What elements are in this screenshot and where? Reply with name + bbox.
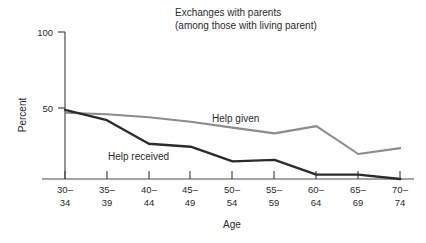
x-tick-label-2-top: 40– bbox=[141, 184, 158, 195]
x-axis: 30– 34 35– 39 40– 44 45– 49 50– 54 55– 5… bbox=[42, 171, 414, 208]
y-axis: 100 50 bbox=[37, 27, 65, 179]
y-tick-label-50: 50 bbox=[42, 103, 53, 114]
x-tick-label-6-bottom: 64 bbox=[311, 197, 322, 208]
series-label-help-given: Help given bbox=[212, 113, 259, 124]
x-tick-label-1-top: 35– bbox=[99, 184, 116, 195]
line-chart: Exchanges with parents (among those with… bbox=[0, 0, 426, 243]
y-tick-label-100: 100 bbox=[37, 27, 53, 38]
x-tick-label-4-bottom: 54 bbox=[227, 197, 238, 208]
x-tick-label-1-bottom: 39 bbox=[102, 197, 113, 208]
x-tick-label-5-top: 55– bbox=[266, 184, 283, 195]
x-tick-label-0-bottom: 34 bbox=[60, 197, 71, 208]
x-tick-label-6-top: 60– bbox=[308, 184, 325, 195]
series-label-help-received: Help received bbox=[108, 151, 169, 162]
x-axis-title: Age bbox=[223, 219, 241, 230]
x-tick-labels: 30– 34 35– 39 40– 44 45– 49 50– 54 55– 5… bbox=[57, 184, 409, 208]
x-tick-label-2-bottom: 44 bbox=[144, 197, 155, 208]
x-tick-label-7-top: 65– bbox=[350, 184, 367, 195]
chart-title-line2: (among those with living parent) bbox=[175, 20, 317, 31]
x-tick-label-4-top: 50– bbox=[224, 184, 241, 195]
x-tick-label-3-top: 45– bbox=[182, 184, 199, 195]
y-axis-title: Percent bbox=[17, 98, 28, 133]
x-tick-label-8-bottom: 74 bbox=[395, 197, 406, 208]
x-tick-label-5-bottom: 59 bbox=[269, 197, 280, 208]
x-tick-label-8-top: 70– bbox=[392, 184, 409, 195]
chart-title-line1: Exchanges with parents bbox=[175, 7, 281, 18]
chart-container: Exchanges with parents (among those with… bbox=[0, 0, 426, 243]
x-tick-label-7-bottom: 69 bbox=[353, 197, 364, 208]
x-tick-label-3-bottom: 49 bbox=[185, 197, 196, 208]
x-tick-label-0-top: 30– bbox=[57, 184, 74, 195]
